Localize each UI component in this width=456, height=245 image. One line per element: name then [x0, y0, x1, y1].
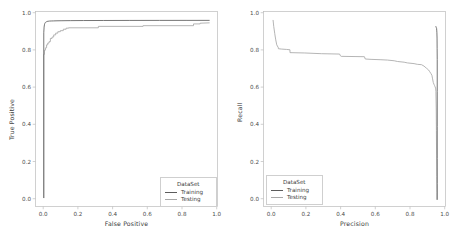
- pr-xtick-5: 1.0: [434, 211, 456, 217]
- roc-legend: DataSet Training Testing: [160, 177, 217, 207]
- pr-ytick-4: 0.8: [238, 47, 259, 53]
- roc-pr-figure: 0.0 0.2 0.4 0.6 0.8 1.0 0.0 0.2 0.4 0.6 …: [0, 0, 456, 245]
- pr-legend-item-testing[interactable]: Testing: [271, 194, 317, 201]
- pr-ytick-1: 0.2: [238, 159, 259, 165]
- roc-xtick-1: 0.2: [67, 211, 89, 217]
- roc-legend-title: DataSet: [177, 181, 211, 187]
- roc-legend-label-training: Training: [181, 189, 203, 196]
- roc-xtick-0: 0.0: [32, 211, 54, 217]
- roc-legend-label-testing: Testing: [181, 196, 201, 203]
- pr-ytick-2: 0.4: [238, 121, 259, 127]
- roc-ytick-4: 0.8: [10, 47, 31, 53]
- roc-xtick-2: 0.4: [102, 211, 124, 217]
- line-swatch-icon: [271, 190, 283, 191]
- pr-x-axis-label: Precision: [263, 220, 446, 227]
- roc-legend-item-training[interactable]: Training: [165, 189, 211, 196]
- roc-xtick-3: 0.6: [136, 211, 158, 217]
- line-swatch-icon: [271, 197, 283, 198]
- pr-ytick-3: 0.6: [238, 84, 259, 90]
- roc-xtick-4: 0.8: [171, 211, 193, 217]
- roc-ytick-1: 0.2: [10, 159, 31, 165]
- roc-ytick-3: 0.6: [10, 84, 31, 90]
- roc-series-testing: [44, 23, 209, 198]
- pr-y-axis-label: Recall: [236, 103, 243, 122]
- line-swatch-icon: [165, 192, 177, 193]
- roc-series-training: [44, 20, 209, 197]
- pr-ytick-5: 1.0: [238, 10, 259, 16]
- roc-y-axis-label: True Positive: [8, 99, 15, 140]
- roc-legend-item-testing[interactable]: Testing: [165, 196, 211, 203]
- roc-plot-svg: [0, 0, 228, 245]
- roc-ytick-5: 1.0: [10, 10, 31, 16]
- roc-xtick-5: 1.0: [206, 211, 228, 217]
- pr-legend-label-training: Training: [287, 187, 309, 194]
- roc-panel: 0.0 0.2 0.4 0.6 0.8 1.0 0.0 0.2 0.4 0.6 …: [0, 0, 228, 245]
- pr-plot-svg: [228, 0, 456, 245]
- roc-x-axis-label: False Positive: [35, 220, 218, 227]
- pr-series-testing: [273, 20, 437, 199]
- line-swatch-icon: [165, 199, 177, 200]
- pr-legend-label-testing: Testing: [287, 194, 307, 201]
- pr-y-ticks: [261, 13, 264, 199]
- pr-legend-title: DataSet: [283, 179, 317, 185]
- roc-ytick-0: 0.0: [10, 196, 31, 202]
- pr-xtick-0: 0.0: [260, 211, 282, 217]
- pr-xtick-2: 0.4: [330, 211, 352, 217]
- pr-x-ticks: [271, 207, 445, 210]
- pr-xtick-3: 0.6: [364, 211, 386, 217]
- precision-recall-panel: 0.0 0.2 0.4 0.6 0.8 1.0 0.0 0.2 0.4 0.6 …: [228, 0, 456, 245]
- pr-xtick-1: 0.2: [295, 211, 317, 217]
- pr-legend: DataSet Training Testing: [266, 175, 323, 205]
- roc-y-ticks: [33, 13, 36, 199]
- pr-xtick-4: 0.8: [399, 211, 421, 217]
- pr-legend-item-training[interactable]: Training: [271, 187, 317, 194]
- pr-ytick-0: 0.0: [238, 196, 259, 202]
